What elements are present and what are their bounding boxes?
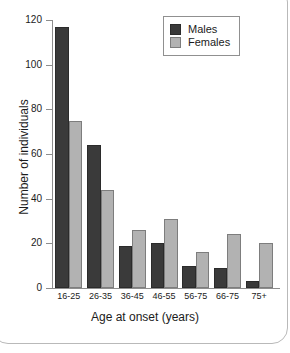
legend-label-females: Females [188,37,230,48]
y-axis-tick-label: 0 [2,283,42,293]
legend-swatch-males-icon [170,24,181,35]
chart-legend: Males Females [163,16,240,56]
bar-chart-figure: 020406080100120 16-2526-3536-4546-5556-7… [0,0,290,353]
y-axis-tick [46,288,52,289]
legend-item-females: Females [170,37,230,48]
y-axis-tick [46,20,52,21]
bar-females-26-35 [101,190,115,288]
y-axis-tick [46,154,52,155]
bar-females-16-25 [69,121,83,289]
bar-males-16-25 [55,27,69,288]
x-axis-title: Age at onset (years) [0,310,290,324]
legend-label-males: Males [188,24,217,35]
y-axis-tick [46,109,52,110]
y-axis-tick [46,199,52,200]
legend-swatch-females-icon [170,37,181,48]
y-axis-tick-label: 120 [2,15,42,25]
y-axis-tick [46,65,52,66]
bar-females-66-75 [227,234,241,288]
bar-females-75+ [259,243,273,288]
bar-males-36-45 [119,246,133,288]
y-axis-tick [46,243,52,244]
bar-females-36-45 [132,230,146,288]
bar-males-75+ [246,281,260,288]
plot-area [53,20,275,288]
bar-males-56-75 [182,266,196,288]
bar-males-66-75 [214,268,228,288]
bar-males-46-55 [151,243,165,288]
x-axis-line [52,288,280,289]
bar-females-46-55 [164,219,178,288]
x-axis-tick-label: 75+ [229,292,289,301]
bar-females-56-75 [196,252,210,288]
legend-item-males: Males [170,24,230,35]
bar-males-26-35 [87,145,101,288]
y-axis-title: Number of individuals [17,47,31,267]
